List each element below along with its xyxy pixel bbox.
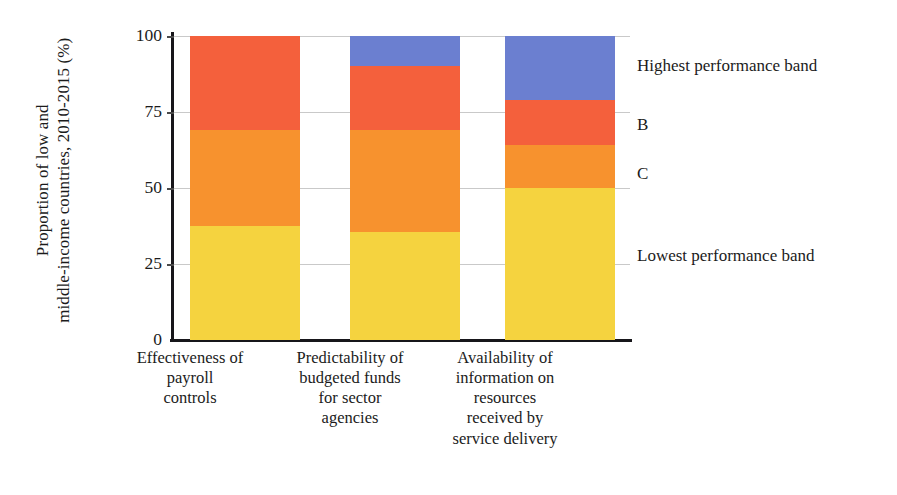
bar-segment-b: [505, 100, 615, 146]
x-axis-label-1: Predictability of budgeted funds for sec…: [275, 348, 425, 429]
ytick-label-75: 75: [145, 103, 163, 121]
ytick-mark-75: [167, 112, 174, 114]
legend-label-highest-performance-band: Highest performance band: [637, 57, 817, 76]
legend-label-c: C: [637, 165, 648, 184]
ytick-label-100: 100: [136, 27, 162, 45]
bar-segment-lowest-performance-band: [190, 226, 300, 340]
bar-segment-b: [350, 66, 460, 130]
chart-figure: Proportion of low and middle-income coun…: [0, 0, 897, 495]
x-axis-label-2: Availability of information on resources…: [430, 348, 580, 449]
ytick-label-0: 0: [153, 331, 162, 349]
ytick-mark-25: [167, 264, 174, 266]
bar-segment-lowest-performance-band: [350, 232, 460, 340]
bar-segment-c: [350, 130, 460, 232]
ytick-mark-50: [167, 188, 174, 190]
plot-area: 100 75 50 25 0: [171, 36, 630, 340]
ytick-label-25: 25: [145, 255, 163, 273]
bar-segment-c: [190, 130, 300, 226]
y-axis-title: Proportion of low and middle-income coun…: [14, 0, 94, 360]
bar-segment-highest-performance-band: [350, 36, 460, 66]
bar-effectiveness-of-payroll-controls[interactable]: [190, 36, 300, 340]
y-axis-title-line1: Proportion of low and: [34, 104, 53, 256]
y-axis-title-line2: middle-income countries, 2010-2015 (%): [54, 37, 75, 322]
bar-availability-of-information-on-resources[interactable]: [505, 36, 615, 340]
legend-label-lowest-performance-band: Lowest performance band: [637, 247, 814, 266]
ytick-label-50: 50: [145, 179, 163, 197]
y-axis-line: [171, 32, 174, 342]
bar-segment-c: [505, 145, 615, 188]
x-axis-label-0: Effectiveness of payroll controls: [115, 348, 265, 408]
bar-segment-highest-performance-band: [505, 36, 615, 100]
bar-segment-b: [190, 36, 300, 130]
bar-predictability-of-budgeted-funds[interactable]: [350, 36, 460, 340]
legend-label-b: B: [637, 116, 648, 135]
bar-segment-lowest-performance-band: [505, 188, 615, 340]
ytick-mark-100: [167, 36, 174, 38]
